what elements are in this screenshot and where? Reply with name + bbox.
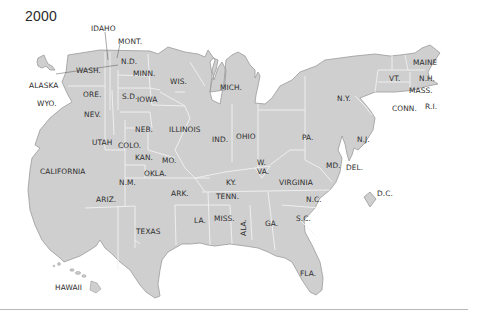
label-michigan: MICH. [220,83,242,92]
label-oregon: ORE. [83,90,101,99]
label-west-virginia-w: W. [257,158,266,167]
label-florida: FLA. [300,269,316,278]
label-pennsylvania: PA. [302,133,314,142]
label-oklahoma: OKLA. [144,169,167,178]
label-louisiana: LA. [194,216,206,225]
label-mississippi: MISS. [214,214,235,223]
label-missouri: MO. [162,156,177,165]
label-maryland: MD. [326,161,341,170]
label-minnesota: MINN. [133,69,155,78]
label-rhode-island: R.I. [425,102,437,111]
label-georgia: GA. [265,219,278,228]
label-alabama: ALA. [239,219,248,236]
alaska-shape [37,55,55,70]
label-ohio: OHIO [236,132,256,141]
dc-shape [364,192,376,207]
label-south-dakota: S.D. [122,92,137,101]
us-cartogram-map: IDAHO MONT. WASH. N.D. MINN. WIS. MICH. … [0,0,485,324]
label-wyoming: WYO. [37,99,57,108]
label-montana: MONT. [118,37,142,46]
label-maine: MAINE [413,58,438,67]
label-kentucky: KY. [226,178,236,187]
label-arkansas: ARK. [171,189,189,198]
label-texas: TEXAS [135,227,161,236]
label-new-jersey: N.J. [357,135,370,144]
label-virginia: VIRGINIA [279,178,313,187]
label-nevada: NEV. [84,110,101,119]
label-west-virginia-va: VA. [257,167,269,176]
label-california: CALIFORNIA [40,167,85,176]
label-north-carolina: N.C. [306,195,322,204]
label-utah: UTAH [92,138,112,147]
label-massachusetts: MASS. [409,86,433,95]
label-nebraska: NEB. [135,125,153,134]
bottom-divider [0,309,468,310]
label-new-mexico: N.M. [119,178,136,187]
label-new-hampshire: N.H. [419,74,435,83]
label-hawaii: HAWAII [55,283,82,292]
label-alaska: ALASKA [29,81,58,90]
label-dc: D.C. [377,189,393,198]
label-tennessee: TENN. [215,192,239,201]
label-iowa: IOWA [137,95,157,104]
label-new-york: N.Y. [337,94,351,103]
label-south-carolina: S.C. [296,214,311,223]
label-delaware: DEL. [346,163,363,172]
label-wisconsin: WIS. [170,77,187,86]
label-vermont: VT. [389,74,400,83]
label-washington: WASH. [76,66,101,75]
label-north-dakota: N.D. [121,57,137,66]
label-indiana: IND. [212,135,228,144]
label-colorado: COLO. [118,141,141,150]
label-kansas: KAN. [135,153,153,162]
label-illinois: ILLINOIS [169,125,201,134]
label-arizona: ARIZ. [96,195,116,204]
label-idaho: IDAHO [91,24,116,33]
label-connecticut: CONN. [392,104,417,113]
